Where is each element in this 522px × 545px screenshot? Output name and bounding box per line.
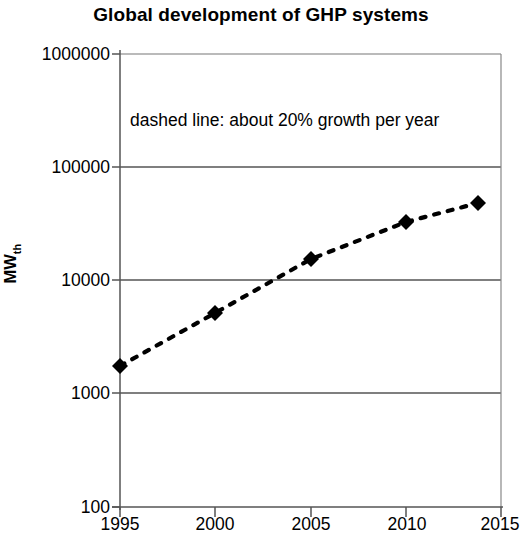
series-line: [120, 203, 478, 366]
data-point-2000: [207, 305, 223, 321]
x-axis-ticks: [120, 507, 501, 517]
series-markers: [112, 195, 486, 374]
gridlines: [120, 54, 501, 393]
data-point-2014: [470, 195, 486, 211]
data-point-2010: [398, 214, 414, 230]
plot-area: [0, 0, 522, 545]
chart-figure: Global development of GHP systems 100000…: [0, 0, 522, 545]
data-point-2005: [303, 251, 319, 267]
y-axis-ticks: [112, 54, 120, 507]
data-point-1995: [112, 358, 128, 374]
